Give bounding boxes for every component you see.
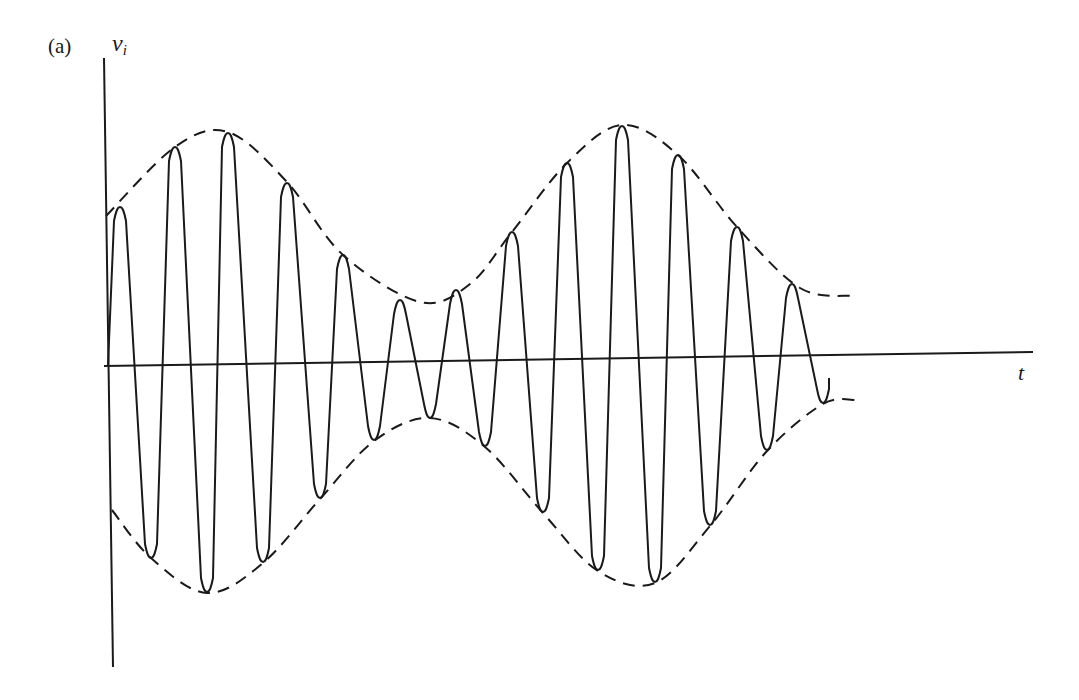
panel-label: (a)	[48, 34, 71, 59]
x-axis-label: t	[1018, 360, 1024, 386]
lower-envelope	[112, 399, 857, 593]
upper-envelope	[106, 125, 853, 303]
am-waveform-figure: (a) vi t	[0, 0, 1079, 700]
y-axis-label: vi	[112, 30, 127, 59]
y-axis-symbol: v	[112, 30, 123, 56]
x-axis	[104, 352, 1033, 366]
carrier-waveform	[108, 126, 829, 592]
y-axis-subscript: i	[123, 42, 127, 58]
waveform-plot	[0, 0, 1079, 700]
